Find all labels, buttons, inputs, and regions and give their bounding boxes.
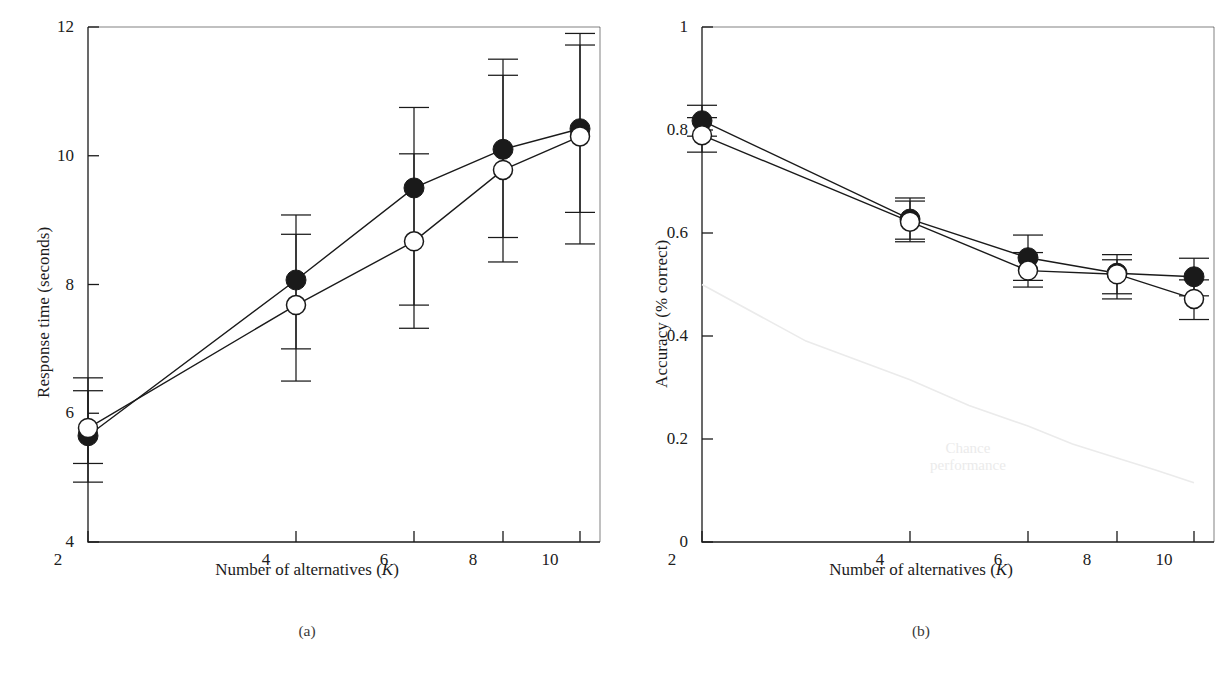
data-point-open xyxy=(571,127,590,146)
x-axis-tick-label: 6 xyxy=(968,550,1028,570)
y-axis-tick-label: 0.6 xyxy=(636,223,688,243)
data-point-open xyxy=(79,419,98,438)
chance-performance-annotation: Chance performance xyxy=(930,440,1006,475)
data-point-open xyxy=(287,296,306,315)
data-point-open xyxy=(901,212,920,231)
panel-a-y-axis-title: Response time (seconds) xyxy=(34,227,54,398)
panel-a-caption: (a) xyxy=(0,622,614,640)
data-point-open xyxy=(494,160,513,179)
series-line-open-circles xyxy=(88,136,580,428)
panel-b-caption: (b) xyxy=(614,622,1228,640)
y-axis-tick-label: 0.4 xyxy=(636,326,688,346)
data-point-filled xyxy=(286,270,306,290)
data-point-filled xyxy=(493,139,513,159)
data-point-open xyxy=(1108,265,1127,284)
figure-two-panel-chart: Response time (seconds) Number of altern… xyxy=(0,0,1228,673)
axis-frame xyxy=(88,27,600,542)
y-axis-tick-label: 0.2 xyxy=(636,429,688,449)
data-point-open xyxy=(693,126,712,145)
y-axis-tick-label: 4 xyxy=(22,532,74,552)
y-axis-tick-label: 8 xyxy=(22,275,74,295)
x-axis-tick-label: 10 xyxy=(520,550,580,570)
x-axis-tick-label: 2 xyxy=(642,550,702,570)
series-line-filled-circles xyxy=(702,121,1194,277)
data-point-filled xyxy=(1184,267,1204,287)
y-axis-tick-label: 0 xyxy=(636,532,688,552)
y-axis-tick-label: 10 xyxy=(22,146,74,166)
y-axis-tick-label: 12 xyxy=(22,17,74,37)
axis-spine xyxy=(88,27,600,542)
error-bar-group-filled-circles xyxy=(73,45,595,482)
data-point-open xyxy=(1019,261,1038,280)
y-axis-tick-label: 1 xyxy=(636,17,688,37)
data-point-open xyxy=(405,232,424,251)
error-bar-group-open-circles xyxy=(73,33,595,463)
y-axis-tick-label: 0.8 xyxy=(636,120,688,140)
chance-annotation-line-2: performance xyxy=(930,457,1006,474)
x-axis-tick-label: 8 xyxy=(1057,550,1117,570)
panel-b-y-axis-title: Accuracy (% correct) xyxy=(652,240,672,388)
data-point-filled xyxy=(404,178,424,198)
panel-a: Response time (seconds) Number of altern… xyxy=(0,0,614,673)
y-axis-tick-label: 6 xyxy=(22,403,74,423)
x-axis-tick-label: 10 xyxy=(1134,550,1194,570)
x-axis-tick-label: 4 xyxy=(236,550,296,570)
error-bar-group-filled-circles xyxy=(687,105,1209,296)
error-bar-group-open-circles xyxy=(687,118,1209,320)
panel-b: Accuracy (% correct) Number of alternati… xyxy=(614,0,1228,673)
x-axis-tick-label: 4 xyxy=(850,550,910,570)
x-axis-tick-label: 6 xyxy=(354,550,414,570)
x-axis-tick-label: 2 xyxy=(28,550,88,570)
chance-annotation-line-1: Chance xyxy=(930,440,1006,457)
x-axis-tick-label: 8 xyxy=(443,550,503,570)
data-point-open xyxy=(1185,289,1204,308)
